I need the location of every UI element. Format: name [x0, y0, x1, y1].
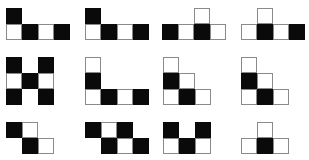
black-cell	[179, 138, 195, 154]
white-cell	[117, 89, 133, 105]
black-cell	[289, 24, 305, 40]
white-cell	[241, 89, 257, 105]
white-cell	[163, 89, 179, 105]
white-cell	[117, 24, 133, 40]
white-cell	[273, 138, 289, 154]
white-cell	[195, 138, 211, 154]
black-cell	[101, 24, 117, 40]
white-cell	[38, 24, 54, 40]
black-cell	[85, 122, 101, 138]
black-cell	[6, 8, 22, 24]
white-cell	[179, 73, 195, 89]
black-cell	[85, 8, 101, 24]
white-cell	[241, 57, 257, 73]
white-cell	[6, 73, 22, 89]
black-cell	[22, 73, 38, 89]
white-cell	[241, 24, 257, 40]
black-cell	[101, 89, 117, 105]
black-cell	[117, 122, 133, 138]
white-cell	[273, 89, 289, 105]
black-cell	[85, 73, 101, 89]
white-cell	[6, 24, 22, 40]
white-cell	[257, 73, 273, 89]
white-cell	[85, 57, 101, 73]
black-cell	[38, 89, 54, 105]
black-cell	[22, 24, 38, 40]
white-cell	[257, 122, 273, 138]
black-cell	[38, 57, 54, 73]
black-cell	[241, 73, 257, 89]
black-cell	[6, 122, 22, 138]
black-cell	[194, 24, 210, 40]
white-cell	[22, 122, 38, 138]
white-cell	[38, 73, 54, 89]
white-cell	[178, 24, 194, 40]
black-cell	[101, 138, 117, 154]
white-cell	[38, 138, 54, 154]
white-cell	[210, 24, 226, 40]
black-cell	[162, 24, 178, 40]
black-cell	[257, 89, 273, 105]
black-cell	[179, 89, 195, 105]
white-cell	[85, 24, 101, 40]
black-cell	[257, 138, 273, 154]
white-cell	[85, 89, 101, 105]
white-cell	[163, 138, 179, 154]
white-cell	[257, 8, 273, 24]
black-cell	[6, 57, 22, 73]
black-cell	[163, 122, 179, 138]
white-cell	[273, 24, 289, 40]
white-cell	[163, 57, 179, 73]
white-cell	[241, 138, 257, 154]
white-cell	[117, 138, 133, 154]
black-cell	[133, 89, 149, 105]
black-cell	[195, 122, 211, 138]
white-cell	[195, 89, 211, 105]
black-cell	[6, 89, 22, 105]
black-cell	[257, 24, 273, 40]
black-cell	[163, 73, 179, 89]
white-cell	[101, 122, 117, 138]
black-cell	[133, 24, 149, 40]
black-cell	[54, 24, 70, 40]
black-cell	[22, 138, 38, 154]
black-cell	[133, 138, 149, 154]
white-cell	[194, 8, 210, 24]
